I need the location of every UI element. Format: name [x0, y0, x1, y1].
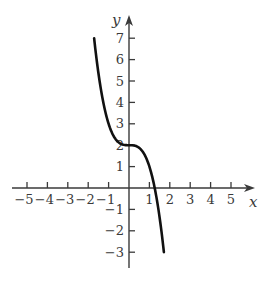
x-tick-label: −5	[14, 192, 33, 207]
x-tick-label: 4	[206, 192, 214, 207]
y-tick-label: 5	[116, 74, 124, 89]
y-tick-label: −2	[105, 223, 124, 238]
x-tick-label: −2	[76, 192, 95, 207]
x-tick-label: −3	[55, 192, 74, 207]
x-tick-label: 5	[227, 192, 235, 207]
x-tick-label: 2	[166, 192, 174, 207]
x-tick-label: 3	[186, 192, 194, 207]
y-tick-label: −3	[105, 245, 124, 260]
y-tick-label: −1	[105, 202, 124, 217]
axes	[12, 15, 255, 268]
x-tick-label: 1	[145, 192, 153, 207]
function-graph: −5−4−3−2−112345−3−2−11234567 x y	[0, 0, 274, 281]
y-axis-label: y	[111, 11, 121, 29]
x-tick-label: −4	[35, 192, 54, 207]
y-tick-label: 6	[116, 52, 124, 67]
y-tick-label: 4	[116, 95, 124, 110]
y-tick-label: 3	[116, 116, 124, 131]
y-tick-label: 1	[116, 159, 124, 174]
x-axis-label: x	[249, 193, 258, 211]
y-tick-label: 7	[116, 31, 124, 46]
